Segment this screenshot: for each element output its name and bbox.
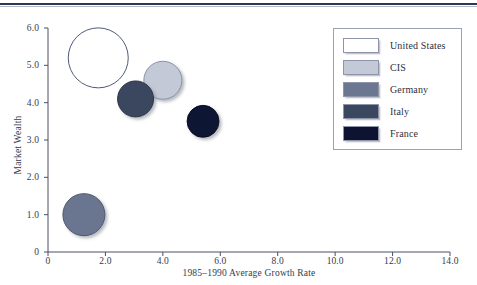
- legend-item-label: Italy: [390, 106, 409, 117]
- legend-item-cis[interactable]: CIS: [343, 58, 455, 77]
- bubble-italy[interactable]: [118, 81, 154, 117]
- bubble-france[interactable]: [187, 105, 219, 137]
- x-tick-label: 8.0: [272, 256, 284, 266]
- x-tick-label: 0: [46, 256, 51, 266]
- legend: United StatesCISGermanyItalyFrance: [333, 28, 462, 150]
- y-tick-label: 6.0: [0, 23, 39, 33]
- legend-item-label: CIS: [390, 62, 406, 73]
- bubble-germany[interactable]: [63, 194, 105, 236]
- x-tick-label: 4.0: [157, 256, 169, 266]
- legend-item-label: United States: [390, 40, 446, 51]
- y-tick-label: 5.0: [0, 60, 39, 70]
- y-tick-label: 1.0: [0, 210, 39, 220]
- bubbles-group: [63, 28, 219, 236]
- y-tick-label: 0: [0, 247, 39, 257]
- legend-swatch-icon: [343, 60, 379, 75]
- legend-item-germany[interactable]: Germany: [343, 80, 455, 99]
- legend-item-label: France: [390, 128, 418, 139]
- legend-item-italy[interactable]: Italy: [343, 102, 455, 121]
- legend-swatch-icon: [343, 126, 379, 141]
- legend-swatch-icon: [343, 104, 379, 119]
- legend-swatch-icon: [343, 82, 379, 97]
- x-tick-label: 12.0: [384, 256, 401, 266]
- legend-item-france[interactable]: France: [343, 124, 455, 143]
- legend-item-united-states[interactable]: United States: [343, 36, 455, 55]
- legend-item-label: Germany: [390, 84, 428, 95]
- x-tick-label: 14.0: [441, 256, 458, 266]
- x-tick-label: 2.0: [99, 256, 111, 266]
- y-axis-title: Market Wealth: [13, 100, 23, 190]
- x-axis-title: 1985–1990 Average Growth Rate: [48, 268, 450, 278]
- x-tick-label: 10.0: [327, 256, 344, 266]
- legend-swatch-icon: [343, 38, 379, 53]
- bubble-united-states[interactable]: [68, 28, 128, 88]
- x-tick-label: 6.0: [214, 256, 226, 266]
